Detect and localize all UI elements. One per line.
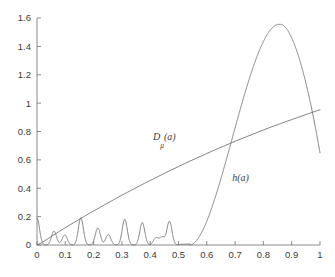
curve-h: [37, 24, 320, 245]
x-tick-label: 0.9: [285, 249, 298, 260]
y-tick-label: 0.4: [18, 183, 31, 194]
y-axis-tick-marks: [37, 18, 41, 245]
curve-d-mu: [37, 110, 320, 245]
y-axis-tick-labels: 00.20.40.60.811.21.41.6: [18, 12, 31, 250]
x-tick-label: 0.7: [228, 249, 241, 260]
y-tick-label: 1.2: [18, 69, 31, 80]
x-tick-label: 0.4: [144, 249, 157, 260]
x-tick-label: 0: [34, 249, 39, 260]
y-tick-label: 0.6: [18, 154, 31, 165]
x-tick-label: 0.5: [172, 249, 185, 260]
y-tick-label: 0.8: [18, 126, 31, 137]
plot-canvas: 00.20.40.60.811.21.41.6 00.10.20.30.40.5…: [0, 0, 335, 277]
x-tick-label: 0.1: [59, 249, 72, 260]
x-tick-label: 1: [317, 249, 322, 260]
x-axis-tick-labels: 00.10.20.30.40.50.60.70.80.91: [34, 249, 322, 260]
y-tick-label: 1.4: [18, 41, 31, 52]
y-tick-label: 1: [26, 98, 31, 109]
y-tick-label: 1.6: [18, 12, 31, 23]
chart-figure: 00.20.40.60.811.21.41.6 00.10.20.30.40.5…: [0, 0, 335, 277]
series-label-d-mu: Dμ(a): [152, 131, 176, 149]
x-tick-label: 0.2: [87, 249, 100, 260]
y-tick-label: 0.2: [18, 211, 31, 222]
y-tick-label: 0: [26, 239, 31, 250]
series-label-h: h(a): [232, 172, 249, 184]
x-tick-label: 0.6: [200, 249, 213, 260]
x-tick-label: 0.3: [115, 249, 128, 260]
x-tick-label: 0.8: [257, 249, 270, 260]
